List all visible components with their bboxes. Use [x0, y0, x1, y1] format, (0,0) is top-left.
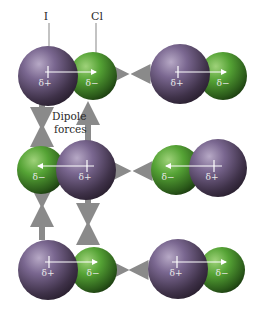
- partial-negative-label: δ−: [217, 78, 230, 88]
- molecule-row3-col2: δ+ δ−: [148, 239, 245, 299]
- molecule-row2-col2: δ− δ+: [151, 139, 247, 197]
- iodine-atom: [150, 44, 210, 104]
- partial-positive-label: δ+: [39, 78, 52, 88]
- partial-positive-label: δ+: [79, 172, 92, 182]
- iodine-atom: [56, 140, 116, 200]
- annotation-line-1: Dipole: [52, 110, 86, 122]
- annotation-line-2: forces: [54, 123, 87, 135]
- partial-positive-label: δ+: [170, 268, 183, 278]
- chlorine-label: Cl: [91, 10, 103, 23]
- partial-positive-label: δ+: [171, 78, 184, 88]
- partial-negative-label: δ−: [33, 172, 46, 182]
- partial-negative-label: δ−: [86, 78, 99, 88]
- partial-positive-label: δ+: [42, 268, 55, 278]
- molecule-row3-col1: δ+ δ−: [18, 240, 117, 300]
- molecule-row2-col1: δ− δ+: [17, 140, 116, 200]
- partial-negative-label: δ−: [216, 268, 229, 278]
- iodine-atom: [189, 139, 247, 197]
- partial-negative-label: δ−: [162, 172, 175, 182]
- iodine-label: I: [44, 10, 48, 23]
- partial-positive-label: δ+: [206, 172, 219, 182]
- molecule-row1-col1: δ+ δ−: [18, 46, 117, 106]
- molecule-row1-col2: δ+ δ−: [150, 44, 247, 104]
- dipole-forces-annotation: Dipole forces: [52, 110, 87, 135]
- dipole-forces-diagram: I Cl Dipole forces: [0, 0, 264, 320]
- partial-negative-label: δ−: [87, 268, 100, 278]
